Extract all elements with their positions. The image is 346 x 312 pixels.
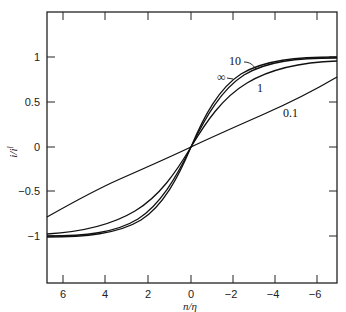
y-tick-0: 0: [34, 141, 40, 153]
top-ticks: [63, 12, 317, 20]
curve-label-10: 10: [229, 54, 241, 68]
y-tick-neg1: −1: [27, 230, 40, 242]
arrow-icon-infinity: [227, 78, 233, 79]
y-tick-0.5: 0.5: [25, 96, 40, 108]
x-tick-labels: 6 4 2 0 −2 −4 −6: [60, 288, 321, 300]
curve-label-1: 1: [257, 81, 263, 95]
x-tick-2: 2: [145, 288, 151, 300]
plot-frame: [47, 12, 337, 283]
bottom-ticks: [63, 275, 317, 283]
curve-0.1: [47, 77, 337, 217]
x-tick-neg6: −6: [309, 288, 322, 300]
y-axis-title-main: i/i: [7, 149, 19, 158]
x-axis-title: n/η: [183, 300, 197, 312]
curve-1: [47, 61, 337, 234]
y-axis-title-sub: l: [6, 146, 15, 149]
x-tick-6: 6: [60, 288, 66, 300]
curves: [47, 57, 337, 237]
x-tick-0: 0: [188, 288, 194, 300]
curve-label-infinity: ∞: [217, 70, 226, 84]
y-tick-labels: 1 0.5 0 −0.5 −1: [18, 51, 40, 242]
y-tick-neg0.5: −0.5: [18, 185, 40, 197]
svg-text:i/il: i/il: [6, 146, 19, 158]
curve-label-0.1: 0.1: [283, 106, 298, 120]
right-ticks: [329, 57, 337, 236]
chart: 1 0.5 0 −0.5 −1 6 4 2 0 −2 −4 −6 n/η i/i…: [0, 0, 346, 312]
y-axis-title: i/il: [6, 146, 19, 158]
x-tick-neg2: −2: [225, 288, 238, 300]
x-tick-4: 4: [102, 288, 108, 300]
left-ticks: [47, 57, 55, 236]
x-tick-neg4: −4: [267, 288, 280, 300]
y-tick-1: 1: [34, 51, 40, 63]
